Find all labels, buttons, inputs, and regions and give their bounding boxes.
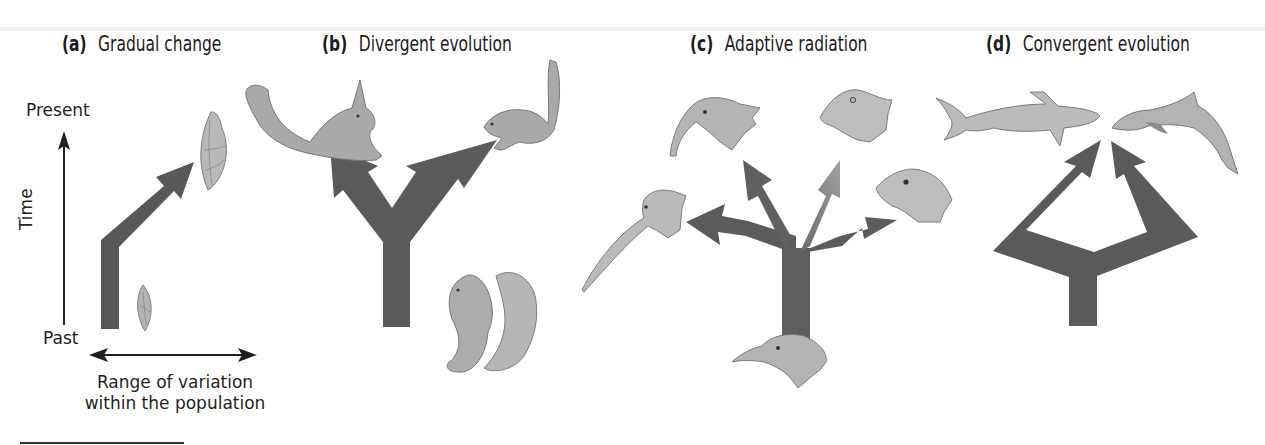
convergent-evolution-arrows — [993, 140, 1198, 326]
small-shell-past — [138, 285, 152, 331]
short-bill-bird — [876, 169, 952, 222]
shark — [936, 92, 1100, 146]
ancestral-bird — [732, 334, 826, 388]
time-axis-arrow — [58, 131, 70, 325]
adaptive-radiation-arrows — [686, 160, 897, 356]
variation-range-double-arrow — [89, 348, 257, 362]
tassel-eared-squirrel — [246, 80, 382, 161]
ancestral-squirrel — [447, 273, 537, 373]
thick-bill-bird — [820, 90, 892, 142]
long-curved-bill-bird — [582, 190, 686, 292]
large-shell-present — [201, 112, 227, 190]
hooked-bill-bird — [670, 98, 760, 156]
long-tailed-squirrel — [484, 60, 560, 150]
bottom-rule — [20, 442, 184, 444]
